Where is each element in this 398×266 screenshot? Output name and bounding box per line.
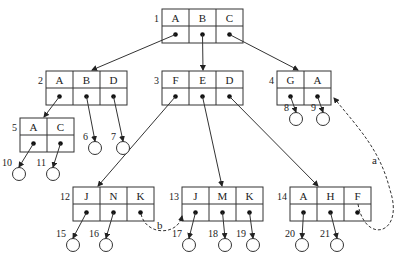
- node-key: J: [84, 190, 89, 202]
- node-number: 12: [60, 191, 70, 202]
- tree-node-12: 12JNK: [60, 187, 154, 221]
- node-key: K: [246, 190, 254, 202]
- leaf-number: 18: [208, 228, 218, 239]
- node-number: 3: [154, 75, 159, 86]
- leaf-number: 19: [236, 228, 246, 239]
- node-key: E: [199, 74, 206, 86]
- node-number: 1: [154, 13, 159, 24]
- leaf-number: 17: [172, 228, 182, 239]
- tree-node-14: 14AHF: [277, 187, 371, 221]
- edge-arrow: [203, 35, 204, 71]
- b-tree-diagram: 1ABC2ABD3FED4GA5AC12JNK13JMK14AHF 678910…: [0, 0, 398, 266]
- node-key: K: [137, 190, 145, 202]
- leaf-number: 7: [111, 131, 116, 142]
- node-key: C: [226, 12, 233, 24]
- node-number: 4: [269, 75, 274, 86]
- tree-nodes: 1ABC2ABD3FED4GA5AC12JNK13JMK14AHF: [12, 9, 371, 221]
- leaf-number: 15: [56, 228, 66, 239]
- node-key: N: [110, 190, 118, 202]
- node-key: B: [83, 74, 90, 86]
- tree-node-2: 2ABD: [38, 71, 127, 105]
- node-key: A: [56, 74, 64, 86]
- node-key: A: [30, 121, 38, 133]
- node-key: D: [226, 74, 234, 86]
- tree-node-4: 4GA: [269, 71, 331, 105]
- node-number: 5: [12, 122, 17, 133]
- node-key: F: [354, 190, 360, 202]
- node-key: A: [172, 12, 180, 24]
- leaf-number: 8: [284, 102, 289, 113]
- leaf-number: 11: [36, 157, 46, 168]
- leaf-number: 9: [311, 102, 316, 113]
- node-key: M: [218, 190, 228, 202]
- tree-node-5: 5AC: [12, 118, 74, 152]
- node-number: 14: [277, 191, 287, 202]
- leaf-number: 6: [83, 131, 88, 142]
- edge-arrow: [92, 35, 176, 71]
- leaf-number: 16: [89, 228, 99, 239]
- node-number: 2: [38, 75, 43, 86]
- tree-node-13: 13JMK: [169, 187, 263, 221]
- node-key: F: [172, 74, 178, 86]
- edge-arrow: [230, 97, 319, 187]
- node-key: H: [327, 190, 335, 202]
- node-key: A: [300, 190, 308, 202]
- node-number: 13: [169, 191, 179, 202]
- edge-arrow: [98, 97, 176, 187]
- node-key: J: [193, 190, 198, 202]
- node-key: A: [314, 74, 322, 86]
- link-label-b: b: [157, 219, 163, 231]
- link-label-a: a: [372, 154, 377, 166]
- edge-arrow: [203, 97, 223, 187]
- leaf-number: 10: [2, 157, 12, 168]
- leaf-number: 20: [285, 228, 295, 239]
- node-key: D: [110, 74, 118, 86]
- edge-arrow: [230, 35, 299, 71]
- node-key: C: [57, 121, 64, 133]
- pointer-dot: [138, 210, 143, 215]
- leaf-number: 21: [320, 228, 330, 239]
- tree-edges: [44, 35, 318, 187]
- node-key: B: [199, 12, 206, 24]
- tree-node-3: 3FED: [154, 71, 243, 105]
- node-key: G: [287, 74, 295, 86]
